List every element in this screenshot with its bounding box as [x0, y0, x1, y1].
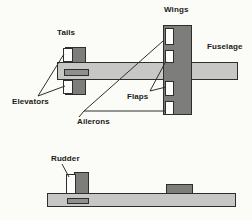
rudder-rect	[66, 174, 76, 194]
label-rudder: Rudder	[51, 154, 80, 163]
flap-left-rect	[165, 50, 174, 63]
elevator-right-rect	[63, 80, 73, 94]
wing-side-view	[166, 184, 193, 194]
leader-lines	[0, 0, 252, 220]
label-wings: Wings	[164, 5, 188, 14]
fuselage-window-detail-side	[67, 198, 89, 204]
elevator-left-rect	[63, 48, 73, 62]
aileron-right-rect	[165, 101, 174, 115]
label-tails: Tails	[57, 28, 75, 37]
vertical-fin	[74, 172, 89, 194]
label-ailerons: Ailerons	[77, 117, 110, 126]
fuselage-window-detail-top	[64, 69, 89, 76]
label-fuselage: Fuselage	[207, 42, 242, 51]
aileron-left-rect	[165, 28, 174, 45]
label-elevators: Elevators	[12, 97, 49, 106]
elevators-leader-bottom	[38, 86, 65, 96]
label-flaps: Flaps	[127, 92, 148, 101]
flap-right-rect	[165, 81, 174, 96]
aircraft-parts-diagram: Tails Wings Fuselage Elevators Flaps Ail…	[0, 0, 252, 220]
